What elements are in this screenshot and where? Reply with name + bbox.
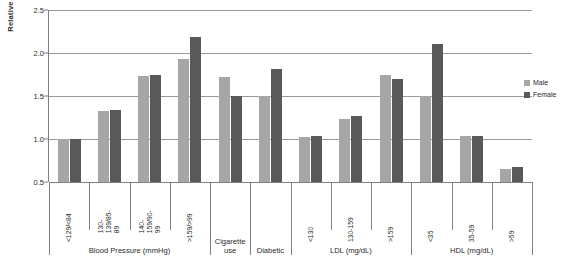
category-tick-label-text: >159/>99 [186, 212, 194, 242]
category-tick-label: 140-159/90-99 [135, 185, 165, 231]
category-separator [130, 182, 131, 230]
category-tick-label-text: <35 [427, 212, 435, 242]
bar-female [271, 69, 282, 182]
bar-male [420, 96, 431, 182]
y-axis-tick-label: 1.0 [34, 135, 44, 144]
category-separator [89, 182, 90, 230]
category-tick-label-text: >59 [508, 212, 516, 242]
relative-risk-bar-chart: Relative Risk 0.51.01.52.02.5 <129/<8413… [0, 0, 577, 261]
category-axis: <129/<84130-139/85-89140-159/90-99>159/>… [49, 182, 532, 261]
group-label: Cigaretteuse [210, 237, 250, 255]
legend-label-male: Male [533, 78, 548, 88]
category-tick-label-text: <129/<84 [65, 212, 73, 242]
category-separator [492, 182, 493, 230]
group-label: Blood Pressure (mmHg) [49, 246, 210, 255]
bar-male [219, 77, 230, 182]
category-tick-label: 35-59 [457, 185, 487, 231]
legend-swatch-female-icon [524, 92, 530, 98]
category-separator [170, 182, 171, 230]
y-axis-tick-label: 2.0 [34, 49, 44, 58]
bar-female [472, 136, 483, 182]
bar-male [138, 76, 149, 182]
group-label: Diabetic [250, 246, 290, 255]
category-tick-label-text: >159 [387, 212, 395, 242]
category-tick-label: <129/<84 [54, 185, 84, 231]
group-separator [291, 182, 292, 255]
bar-female [110, 110, 121, 182]
category-separator [371, 182, 372, 230]
bar-male [299, 137, 310, 182]
bar-female [351, 116, 362, 182]
legend-item-female: Female [524, 90, 556, 100]
y-axis-tick-label: 0.5 [34, 178, 44, 187]
bar-group [371, 10, 411, 182]
bar-male [259, 96, 270, 182]
group-separator [532, 182, 533, 255]
bars-layer [49, 10, 532, 182]
bar-male [178, 59, 189, 182]
category-tick-label: 130-159 [336, 185, 366, 231]
bar-group [291, 10, 331, 182]
bar-group [452, 10, 492, 182]
bar-female [70, 139, 81, 182]
category-tick-label-text: 130-139/85-89 [97, 204, 122, 234]
category-tick-label: >159 [376, 185, 406, 231]
bar-female [512, 167, 523, 182]
legend: Male Female [524, 78, 556, 102]
group-separator [49, 182, 50, 255]
bar-female [190, 37, 201, 182]
bar-group [210, 10, 250, 182]
bar-group [89, 10, 129, 182]
bar-male [500, 169, 511, 182]
category-tick-label-text: 140-159/90-99 [137, 204, 162, 234]
plot-area [49, 10, 532, 182]
y-axis-tick-label: 1.5 [34, 92, 44, 101]
category-separator [452, 182, 453, 230]
group-separator [250, 182, 251, 255]
group-label: HDL (mg/dL) [411, 246, 532, 255]
bar-female [150, 75, 161, 183]
bar-group [49, 10, 89, 182]
bar-group [411, 10, 451, 182]
legend-item-male: Male [524, 78, 556, 88]
bar-group [331, 10, 371, 182]
category-tick-label: >159/>99 [175, 185, 205, 231]
y-axis-tick-label: 2.5 [34, 6, 44, 15]
category-tick-label: <35 [416, 185, 446, 231]
bar-female [231, 96, 242, 182]
bar-female [432, 44, 443, 182]
bar-male [58, 139, 69, 182]
group-label: LDL (mg/dL) [291, 246, 412, 255]
group-separator [411, 182, 412, 255]
bar-group [130, 10, 170, 182]
y-axis-title: Relative Risk [6, 0, 15, 52]
category-tick-label: <130 [296, 185, 326, 231]
legend-swatch-male-icon [524, 80, 530, 86]
category-tick-label-text: 130-159 [347, 212, 355, 242]
bar-male [380, 75, 391, 183]
y-axis-tick-labels: 0.51.01.52.02.5 [24, 10, 48, 182]
category-tick-label-text: 35-59 [468, 212, 476, 242]
category-tick-label: 130-139/85-89 [94, 185, 124, 231]
bar-male [460, 136, 471, 182]
bar-female [311, 136, 322, 182]
legend-label-female: Female [533, 90, 556, 100]
bar-male [339, 119, 350, 182]
category-separator [331, 182, 332, 230]
category-tick-label: >59 [497, 185, 527, 231]
category-tick-label-text: <130 [307, 212, 315, 242]
bar-male [98, 111, 109, 182]
bar-group [170, 10, 210, 182]
bar-female [392, 79, 403, 182]
bar-group [250, 10, 290, 182]
